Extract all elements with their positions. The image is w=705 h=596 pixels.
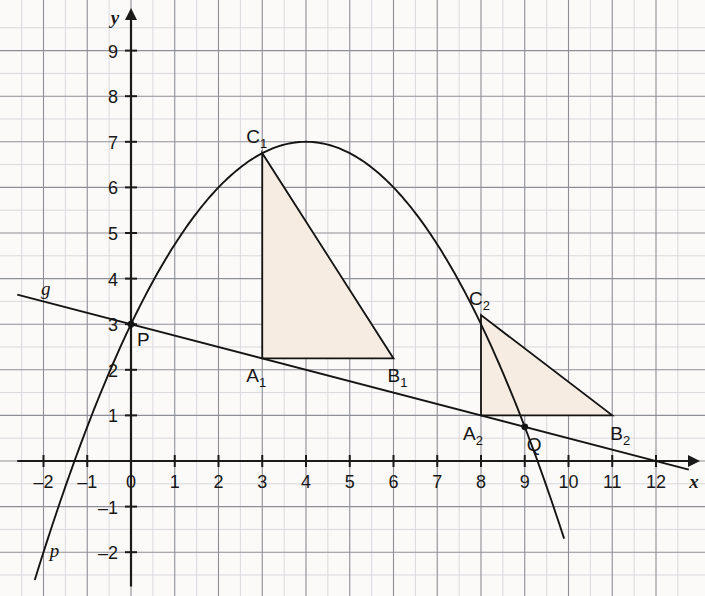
point-marker-P: [128, 321, 135, 328]
x-tick-label: 6: [388, 472, 398, 492]
point-label-Q: Q: [527, 434, 542, 455]
y-tick-label: 8: [108, 87, 118, 107]
x-tick-label: 9: [520, 472, 530, 492]
axes: [17, 8, 700, 586]
y-tick-label: 7: [108, 133, 118, 153]
point-label-A2: A2: [463, 423, 483, 448]
curve-label-g: g: [41, 278, 51, 299]
y-tick-label: 2: [108, 361, 118, 381]
y-tick-label: 5: [108, 224, 118, 244]
x-tick-label: 12: [646, 472, 666, 492]
point-label-A1: A1: [246, 365, 266, 390]
x-tick-label: –1: [77, 472, 97, 492]
y-axis-label: y: [109, 7, 120, 28]
y-tick-label: 6: [108, 178, 118, 198]
x-tick-label: 10: [558, 472, 578, 492]
x-tick-label: 5: [345, 472, 355, 492]
x-tick-label: 0: [126, 472, 136, 492]
y-tick-label: –1: [98, 498, 118, 518]
curve-label-p: p: [48, 540, 60, 561]
x-axis-label: x: [688, 471, 699, 492]
point-label-C1: C1: [246, 126, 267, 151]
point-label-B2: B2: [610, 423, 630, 448]
y-tick-label: 3: [108, 315, 118, 335]
y-tick-label: 9: [108, 42, 118, 62]
x-tick-label: –2: [33, 472, 53, 492]
x-tick-label: 2: [213, 472, 223, 492]
point-marker-Q: [521, 423, 528, 430]
x-tick-label: 4: [301, 472, 311, 492]
point-label-C2: C2: [469, 288, 490, 313]
x-tick-label: 1: [170, 472, 180, 492]
figure-canvas: –2–10123456789101112–2–1123456789xypgPQA…: [0, 0, 705, 596]
point-label-B1: B1: [388, 365, 408, 390]
y-tick-label: 1: [108, 406, 118, 426]
y-tick-label: –2: [98, 543, 118, 563]
x-tick-label: 11: [603, 472, 622, 492]
x-tick-label: 7: [432, 472, 442, 492]
coordinate-plot: –2–10123456789101112–2–1123456789xypgPQA…: [0, 0, 705, 596]
y-tick-label: 4: [108, 270, 118, 290]
x-tick-label: 8: [476, 472, 486, 492]
x-tick-label: 3: [257, 472, 267, 492]
text-labels: –2–10123456789101112–2–1123456789xypgPQA…: [33, 7, 699, 563]
point-label-P: P: [137, 329, 150, 350]
